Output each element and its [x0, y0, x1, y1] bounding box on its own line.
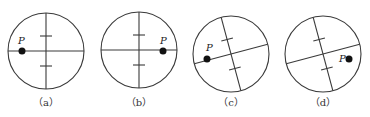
panel-d: P（d）	[276, 7, 369, 108]
point-p-label: P	[338, 53, 346, 64]
field-of-view-diagram: P（a） P（b） P（c） P（d）	[0, 0, 370, 117]
point-p-dot	[19, 48, 26, 55]
crosshair	[184, 7, 277, 100]
panel-caption: （a）	[33, 97, 59, 108]
panel-c: P（c）	[184, 7, 277, 108]
point-p-label: P	[17, 35, 25, 46]
point-p-label: P	[205, 42, 213, 53]
panel-caption: （d）	[310, 97, 336, 108]
vertical-axis-line	[221, 17, 241, 90]
point-p-dot	[160, 48, 167, 55]
point-p-dot	[204, 56, 211, 63]
point-p-dot	[346, 56, 353, 63]
panel-caption: （c）	[218, 97, 244, 108]
panel-caption: （b）	[126, 97, 152, 108]
panel-b: P（b）	[101, 12, 177, 108]
crosshair	[276, 7, 369, 100]
panel-a: P（a）	[8, 13, 84, 108]
point-p-label: P	[159, 35, 167, 46]
vertical-axis-line	[313, 17, 333, 90]
